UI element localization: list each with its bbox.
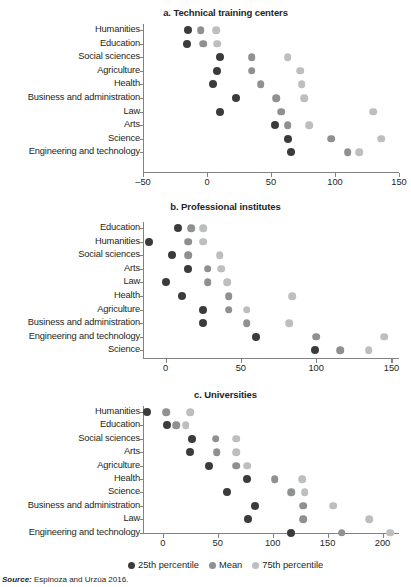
data-point [297,67,305,75]
category-label: Humanities [95,237,140,246]
x-tick-label: 150 [391,178,407,187]
x-tick-mark [335,173,336,177]
legend-label: 75th percentile [262,560,323,570]
category-label: Education [100,39,140,48]
data-point [370,108,378,116]
x-tick-mark [218,534,219,538]
category-label: Agriculture [97,66,140,75]
category-label: Engineering and technology [29,332,140,341]
data-point [162,408,170,416]
category-label: Science [108,488,140,497]
data-point [199,40,207,48]
x-tick-label: 100 [327,178,343,187]
data-point [199,238,207,246]
data-point [288,489,296,497]
x-tick-mark [163,534,164,538]
legend-item: Mean [209,560,242,570]
data-point [172,422,180,430]
source-note: Source: Espinoza and Urzúa 2016. [2,575,128,584]
data-point [197,26,205,34]
data-point [298,81,306,89]
data-point [225,292,233,300]
data-point [218,265,226,273]
figure-container: a. Technical training centers Humanities… [0,0,411,587]
legend-label: 25th percentile [138,560,199,570]
data-point [272,94,280,102]
category-label: Law [123,107,140,116]
y-axis-line [143,406,144,533]
category-label: Business and administration [28,319,140,328]
chart-legend: 25th percentileMean75th percentile [128,560,329,570]
data-point [257,81,265,89]
data-point [233,435,241,443]
data-point [327,135,335,143]
category-label: Law [123,515,140,524]
x-tick-label: 100 [265,539,281,548]
data-point [209,80,217,88]
category-label: Business and administration [28,501,140,510]
data-point [244,515,252,523]
category-label: Health [114,474,140,483]
data-point [336,347,344,355]
data-point [243,319,251,327]
x-tick-mark [383,534,384,538]
data-point [277,108,285,116]
category-label: Humanities [95,407,140,416]
category-label: Law [123,278,140,287]
legend-swatch-2 [209,562,216,569]
data-point [145,238,153,246]
data-point [287,148,295,156]
panel-a: a. Technical training centers Humanities… [0,0,411,190]
data-point [199,306,207,314]
data-point [284,135,292,143]
data-point [168,251,176,259]
panel-c-plot: HumanitiesEducationSocial sciencesArtsAg… [0,380,411,560]
legend-item: 25th percentile [128,560,199,570]
data-point [248,67,256,75]
x-tick-label: 150 [320,539,336,548]
data-point [248,53,256,61]
x-tick-mark [241,359,242,363]
x-tick-mark [166,359,167,363]
category-label: Business and administration [28,93,140,102]
category-label: Social sciences [78,53,140,62]
legend-swatch-3 [252,562,259,569]
data-point [186,408,194,416]
category-label: Arts [124,121,140,130]
data-point [223,488,231,496]
data-point [312,333,320,341]
x-tick-label: 0 [160,539,165,548]
data-point [205,462,213,470]
data-point [311,346,319,354]
x-tick-label: 50 [236,364,246,373]
data-point [287,529,295,537]
data-point [174,224,182,232]
x-tick-label: 150 [384,364,400,373]
data-point [182,422,190,430]
data-point [184,26,192,34]
data-point [184,265,192,273]
x-tick-label: 200 [375,539,391,548]
category-label: Science [108,346,140,355]
category-label: Arts [124,448,140,457]
data-point [213,40,221,48]
legend-swatch-1 [128,562,135,569]
data-point [183,40,191,48]
data-point [204,265,212,273]
data-point [344,149,352,157]
data-point [184,238,192,246]
panel-a-plot: HumanitiesEducationSocial sciencesAgricu… [0,0,411,190]
data-point [225,306,233,314]
data-point [386,529,394,537]
legend-label: Mean [219,560,242,570]
data-point [184,251,192,259]
data-point [186,448,194,456]
data-point [380,333,388,341]
x-tick-label: 0 [204,178,209,187]
category-label: Social sciences [78,434,140,443]
data-point [143,408,151,416]
x-tick-mark [399,173,400,177]
x-tick-mark [391,359,392,363]
category-label: Arts [124,264,140,273]
category-label: Humanities [95,25,140,34]
